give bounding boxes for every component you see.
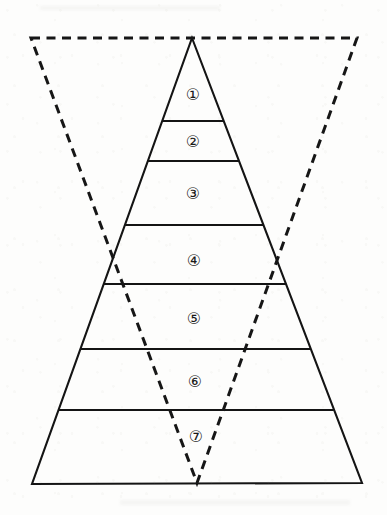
layer-label-2: ②	[186, 134, 200, 150]
layer-label-7: ⑦	[189, 429, 203, 445]
layer-label-3: ③	[186, 186, 200, 202]
layer-label-1: ①	[186, 87, 200, 103]
layer-label-4: ④	[187, 253, 201, 269]
layer-label-5: ⑤	[187, 311, 201, 327]
layer-label-6: ⑥	[188, 374, 202, 390]
figure-root: ① ② ③ ④ ⑤ ⑥ ⑦	[0, 0, 387, 515]
